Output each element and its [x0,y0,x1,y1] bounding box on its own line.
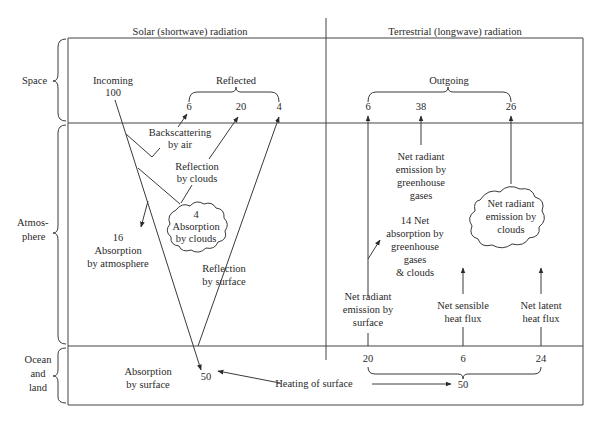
reflection-surface-label-1: Reflection [202,263,246,274]
reflected-brace [189,87,279,102]
ghg-emission-label-3: greenhouse [397,177,445,188]
net-absorption-label-5: & clouds [396,267,434,278]
ghg-emission-label-1: Net radiant [398,151,445,162]
cloud-emission-label-2: emission by [486,211,537,222]
sensible-heat-label-2: heat flux [444,313,482,324]
surface-emission-label-3: surface [353,317,384,328]
surface-emission-label-2: emission by [343,304,394,315]
backscattering-label-1: Backscattering [149,127,212,138]
cloud-emission-label-3: clouds [497,224,524,235]
atmosphere-absorption-label-2: by atmosphere [87,258,149,269]
reflection-clouds-label-2: by clouds [177,173,218,184]
cloud-branch [138,168,180,204]
surface-absorption-label-1: Absorption [124,366,172,377]
net-absorption-arrow [368,240,380,259]
solar-column-header: Solar (shortwave) radiation [133,26,249,38]
layer-braces [53,39,66,403]
surface-emission-label-1: Net radiant [345,291,392,302]
cloud-reflection-link [181,185,192,203]
net-absorption-label-4: gases [404,254,427,265]
outgoing-value-ghg: 38 [416,101,427,112]
cloud-absorption-label-1: Absorption [172,221,220,232]
outgoing-label: Outgoing [429,75,469,86]
backscatter-tick [152,148,160,157]
latent-heat-label-2: heat flux [522,313,560,324]
net-absorption-label-3: greenhouse [391,241,439,252]
outgoing-value-clouds: 26 [506,101,517,112]
sensible-heat-label-1: Net sensible [437,300,489,311]
layer-label-space: Space [22,75,47,86]
cloud-emission-label-1: Net radiant [488,198,535,209]
backscattering-label-2: by air [168,139,193,150]
surface-value-latent: 24 [536,353,547,364]
energy-balance-diagram: Solar (shortwave) radiation Terrestrial … [0,0,604,422]
reflected-value-clouds: 20 [236,101,247,112]
layer-label-surface-3: land [29,382,48,393]
reflected-label: Reflected [216,75,257,86]
ghg-emission-label-4: gases [410,190,433,201]
layer-label-atmosphere-2: phere [22,231,46,242]
surface-total-brace [368,367,541,379]
atmosphere-absorption-value: 16 [113,232,124,243]
heating-label: Heating of surface [275,378,353,389]
latent-heat-label-1: Net latent [520,300,561,311]
ghg-emission-label-2: emission by [396,164,447,175]
layer-label-atmosphere-1: Atmos- [17,217,49,228]
surface-value-emission: 20 [363,353,374,364]
atmosphere-absorption-label-1: Absorption [94,245,142,256]
surface-absorption-value: 50 [201,371,212,382]
terrestrial-column-header: Terrestrial (longwave) radiation [388,26,522,38]
reflection-surface-label-2: by surface [202,276,246,287]
heating-left-arrow [218,371,280,383]
reflected-value-air: 6 [186,101,191,112]
outgoing-value-surface: 6 [365,101,370,112]
surface-total-value: 50 [458,379,469,390]
cloud-absorption-value: 4 [193,209,199,220]
atmosphere-absorption-arrow [141,201,148,227]
net-absorption-label-2: absorption by [386,228,444,239]
reflected-value-surface: 4 [276,101,282,112]
layer-label-surface-2: and [30,368,46,379]
surface-absorption-label-2: by surface [126,379,170,390]
incoming-value: 100 [105,87,121,98]
net-absorption-label-1: 14 Net [401,215,429,226]
surface-value-sensible: 6 [460,353,465,364]
backscatter-arrow [178,114,187,127]
outgoing-brace [368,87,511,102]
layer-label-surface-1: Ocean [25,354,53,365]
reflection-clouds-label-1: Reflection [175,161,219,172]
cloud-absorption-label-2: by clouds [176,233,217,244]
incoming-label: Incoming [93,75,134,86]
